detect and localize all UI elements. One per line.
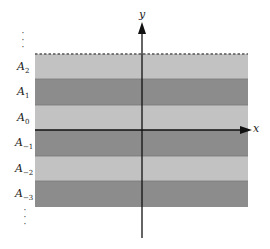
diagram-graphic — [0, 0, 270, 249]
layered-medium-diagram: y x ··· ··· A2 A1 A0 A−1 A−2 A−3 — [0, 0, 270, 249]
layer-label-a-2: A−2 — [15, 163, 33, 177]
layer-label-a-3: A−3 — [15, 188, 33, 202]
layer-label-a1: A1 — [17, 86, 29, 100]
ellipsis-bottom: ··· — [22, 207, 28, 228]
layer-label-a0: A0 — [17, 112, 29, 126]
y-axis-label: y — [139, 9, 145, 20]
x-axis-label: x — [253, 123, 259, 134]
layer-label-a2: A2 — [17, 61, 29, 75]
layer-label-a-1: A−1 — [15, 137, 33, 151]
y-axis-arrow-icon — [138, 22, 146, 34]
ellipsis-top: ··· — [20, 30, 26, 51]
